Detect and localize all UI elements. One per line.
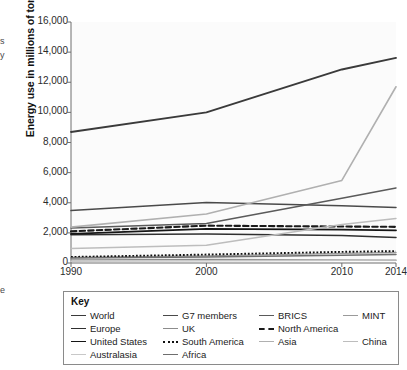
legend-swatch: [71, 328, 86, 329]
legend-swatch: [163, 328, 178, 329]
legend-swatch: [343, 315, 358, 316]
legend-title: Key: [71, 296, 392, 308]
legend-swatch: [71, 341, 86, 342]
line-chart: Energy use in millions of tons 02,0004,0…: [0, 0, 405, 288]
legend: Key WorldG7 membersBRICSMINTEuropeUKNort…: [63, 291, 399, 365]
legend-label: G7 members: [182, 310, 237, 321]
legend-swatch: [163, 354, 178, 355]
legend-swatch: [163, 315, 178, 316]
legend-swatch: [163, 341, 178, 343]
legend-row: WorldG7 membersBRICSMINT: [71, 309, 392, 322]
legend-rows: WorldG7 membersBRICSMINTEuropeUKNorth Am…: [71, 309, 392, 361]
legend-label: World: [90, 310, 115, 321]
x-axis-tick-label: 1990: [60, 266, 82, 277]
legend-label: Asia: [278, 336, 296, 347]
legend-swatch: [259, 341, 274, 342]
legend-label: North America: [278, 323, 338, 334]
legend-item-asia[interactable]: Asia: [259, 335, 296, 348]
legend-swatch: [71, 354, 86, 355]
legend-item-africa[interactable]: Africa: [163, 348, 206, 361]
legend-label: MINT: [362, 310, 385, 321]
legend-row: EuropeUKNorth America: [71, 322, 392, 335]
x-axis-tick-label: 2010: [331, 266, 353, 277]
x-axis-tick-label: 2014: [385, 266, 407, 277]
legend-label: Africa: [182, 349, 206, 360]
legend-item-china[interactable]: China: [343, 335, 387, 348]
legend-row: AustralasiaAfrica: [71, 348, 392, 361]
legend-item-brics[interactable]: BRICS: [259, 309, 307, 322]
legend-label: South America: [182, 336, 244, 347]
legend-item-south-america[interactable]: South America: [163, 335, 244, 348]
legend-label: UK: [182, 323, 195, 334]
legend-item-united-states[interactable]: United States: [71, 335, 147, 348]
x-axis-tick-labels: 1990200020102014: [0, 266, 405, 284]
legend-item-uk[interactable]: UK: [163, 322, 195, 335]
legend-label: BRICS: [278, 310, 307, 321]
legend-label: United States: [90, 336, 147, 347]
legend-item-europe[interactable]: Europe: [71, 322, 121, 335]
legend-label: China: [362, 336, 387, 347]
legend-swatch: [343, 341, 358, 342]
x-axis-tick-label: 2000: [195, 266, 217, 277]
legend-swatch: [259, 315, 274, 316]
legend-item-australasia[interactable]: Australasia: [71, 348, 137, 361]
legend-label: Europe: [90, 323, 121, 334]
legend-item-north-america[interactable]: North America: [259, 322, 338, 335]
legend-item-g7-members[interactable]: G7 members: [163, 309, 237, 322]
legend-item-world[interactable]: World: [71, 309, 115, 322]
plot-canvas: [0, 0, 405, 288]
legend-item-mint[interactable]: MINT: [343, 309, 385, 322]
legend-label: Australasia: [90, 349, 137, 360]
legend-row: United StatesSouth AmericaAsiaChina: [71, 335, 392, 348]
legend-swatch: [71, 315, 86, 316]
legend-swatch: [259, 328, 274, 330]
